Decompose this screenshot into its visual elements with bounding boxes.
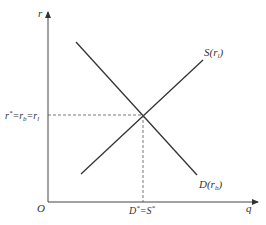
supply-demand-diagram: r q O S(rl) D(rb) r*=rb=rl D*=S* xyxy=(0,0,266,225)
equilibrium-rate-label: r*=rb=rl xyxy=(5,109,39,123)
demand-curve xyxy=(76,42,197,175)
supply-curve xyxy=(81,60,203,174)
origin-label: O xyxy=(37,202,45,214)
x-axis-label: q xyxy=(246,202,252,214)
y-axis-label: r xyxy=(38,7,43,19)
supply-curve-label: S(rl) xyxy=(204,46,223,60)
demand-curve-label: D(rb) xyxy=(198,178,222,192)
equilibrium-quantity-label: D*=S* xyxy=(128,204,155,216)
